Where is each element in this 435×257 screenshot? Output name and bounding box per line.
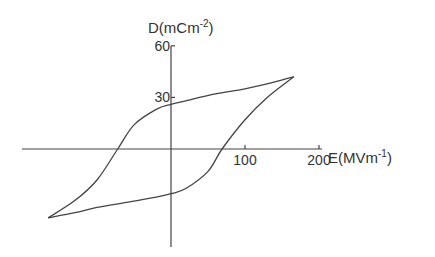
x-axis-label: E(MVm-1) [328, 148, 392, 166]
hysteresis-chart: 1002003060 D(mCm-2) E(MVm-1) [0, 0, 435, 257]
ticks [171, 46, 319, 149]
axes [22, 46, 322, 247]
y-axis-label: D(mCm-2) [148, 18, 214, 36]
y-tick-label: 30 [154, 89, 170, 105]
y-tick-label: 60 [154, 38, 170, 54]
x-tick-label: 100 [233, 152, 257, 168]
